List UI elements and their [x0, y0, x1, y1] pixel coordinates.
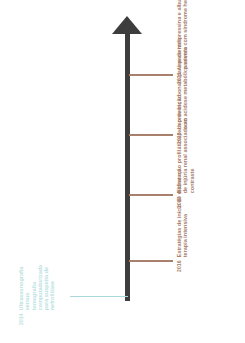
event-label-2016: Estratégias de início de diálise na tera… [176, 157, 189, 257]
event-year-2014: 2014 [18, 313, 24, 325]
event-label-2014: Ultrassonografia versus tomografia compu… [18, 263, 56, 310]
connector-line-2021 [129, 74, 173, 76]
connector-line-2016 [129, 260, 173, 262]
timeline-figure: 2021 Uso de terlipressina e albumina no … [0, 0, 245, 343]
connector-line-2018 [129, 134, 173, 136]
event-year-2016: 2016 [176, 260, 182, 272]
connector-line-2014 [70, 296, 128, 297]
timeline-event-2014[interactable]: 2014 Ultrassonografia versus tomografia … [18, 263, 56, 325]
timeline-event-2016[interactable]: 2016 Estratégias de início de diálise na… [176, 157, 189, 272]
connector-line-2017 [129, 194, 173, 196]
